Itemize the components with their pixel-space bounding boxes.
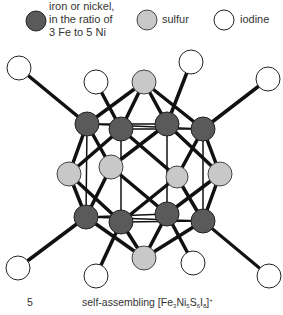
metal-atom [155,202,179,226]
iodine-atom [257,264,281,288]
sulfur-atom [166,166,188,188]
iodine-atom [84,70,108,94]
legend-iodine-icon [214,10,234,30]
legend-metal-line: in the ratio of [49,13,114,26]
iodine-atom [6,256,30,280]
metal-atom [191,117,215,141]
legend-metal-line: 3 Fe to 5 Ni [49,26,114,39]
metal-atom [191,209,215,233]
caption-charge: + [209,297,213,303]
sulfur-atom [57,162,81,186]
iodine-atom [256,67,280,91]
legend-iodine-label: iodine [240,13,269,26]
sulfur-atoms [57,70,232,270]
iodine-atom [7,56,31,80]
iodine-atom [84,264,108,288]
legend-sulfur-icon [137,10,157,30]
legend-metal-label: iron or nickel, in the ratio of 3 Fe to … [49,0,114,39]
iodine-atom [181,251,205,275]
metal-atom [74,205,98,229]
figure-number: 5 [27,296,33,308]
metal-atom [109,210,133,234]
metal-atom [75,112,99,136]
metal-atom [155,112,179,136]
caption-text: S [190,296,197,308]
caption-text: self-assembling [Fe [82,296,173,308]
caption-text: Ni [176,296,186,308]
iodine-atom [179,50,203,74]
sulfur-atom [132,246,156,270]
legend-sulfur-label: sulfur [162,13,189,26]
metal-atom [109,117,133,141]
sulfur-atom [99,155,123,179]
sulfur-atom [208,162,232,186]
metal-atoms [74,112,215,234]
legend-metal-icon [26,11,46,31]
figure-caption: self-assembling [Fe3Ni5S6I8]+ [82,296,213,309]
cluster-diagram [0,0,283,315]
sulfur-atom [132,70,156,94]
legend-metal-line: iron or nickel, [49,0,114,13]
